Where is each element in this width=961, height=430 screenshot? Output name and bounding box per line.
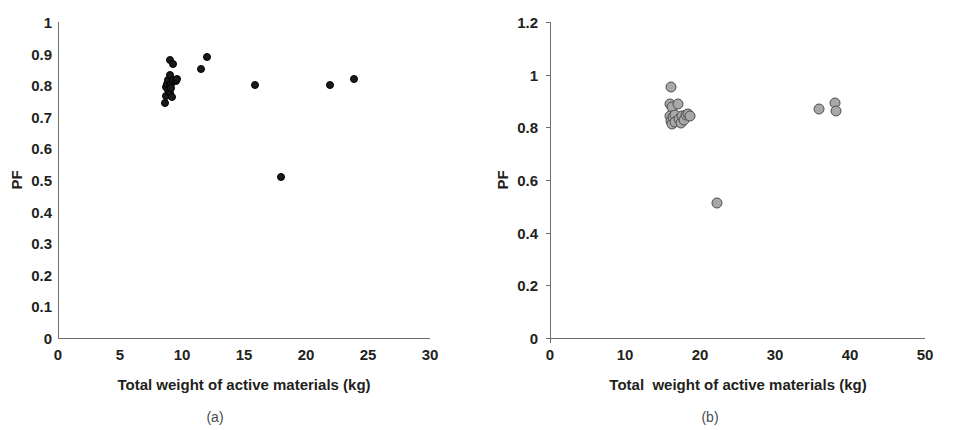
- x-tick-label: 5: [116, 347, 124, 362]
- y-tick-label: 0: [0, 331, 52, 346]
- data-point: [167, 84, 175, 92]
- x-tick-label: 10: [174, 347, 191, 362]
- x-axis-line-b: [550, 338, 925, 339]
- y-tick-label: 0: [480, 331, 538, 346]
- y-axis-title-b: PF: [495, 170, 510, 189]
- x-axis-title-b: Total weight of active materials (kg): [609, 377, 866, 392]
- chart-panel-a: 00.10.20.30.40.50.60.70.80.91 0510152025…: [0, 0, 480, 430]
- data-point: [251, 81, 259, 89]
- x-axis-line-a: [58, 338, 430, 339]
- x-tick-label: 40: [842, 347, 859, 362]
- y-tick-label: 0.4: [480, 225, 538, 240]
- y-tick-label: 1.2: [480, 15, 538, 30]
- x-tick-label: 10: [617, 347, 634, 362]
- x-tick-label: 20: [298, 347, 315, 362]
- x-tick-label: 0: [546, 347, 554, 362]
- data-point: [197, 65, 205, 73]
- data-point: [672, 98, 683, 109]
- x-tick-label: 50: [917, 347, 934, 362]
- panel-caption-b: (b): [701, 410, 718, 424]
- y-axis-title-a: PF: [9, 170, 24, 189]
- chart-panel-b: 00.20.40.60.811.2 01020304050 PF Total w…: [480, 0, 961, 430]
- x-tick-label: 30: [767, 347, 784, 362]
- x-tick-label: 15: [236, 347, 253, 362]
- data-point: [168, 93, 176, 101]
- y-tick-label: 0.8: [480, 120, 538, 135]
- plot-area-a: [58, 22, 430, 338]
- data-point: [665, 81, 676, 92]
- y-tick-label: 0.8: [0, 78, 52, 93]
- figure-container: 00.10.20.30.40.50.60.70.80.91 0510152025…: [0, 0, 961, 430]
- data-point: [685, 111, 696, 122]
- y-tick-label: 0.9: [0, 46, 52, 61]
- panel-caption-a: (a): [206, 410, 223, 424]
- y-tick-label: 1: [480, 67, 538, 82]
- data-point: [277, 173, 285, 181]
- x-tick-label: 0: [54, 347, 62, 362]
- y-tick-label: 0.7: [0, 109, 52, 124]
- data-point: [203, 53, 211, 61]
- plot-area-b: [550, 22, 925, 338]
- y-tick-label: 0.4: [0, 204, 52, 219]
- data-point: [169, 60, 177, 68]
- x-tick-label: 20: [692, 347, 709, 362]
- y-tick-label: 0.6: [0, 141, 52, 156]
- data-point: [830, 106, 841, 117]
- x-tick-label: 30: [422, 347, 439, 362]
- x-tick-label: 25: [360, 347, 377, 362]
- data-point: [326, 81, 334, 89]
- x-tick-mark: [550, 338, 551, 343]
- data-point: [173, 75, 181, 83]
- y-tick-label: 0.1: [0, 299, 52, 314]
- y-tick-label: 0.2: [0, 267, 52, 282]
- data-point: [814, 103, 825, 114]
- y-tick-label: 0.3: [0, 236, 52, 251]
- x-axis-title-a: Total weight of active materials (kg): [117, 377, 370, 392]
- y-tick-label: 0.2: [480, 278, 538, 293]
- data-point: [712, 198, 723, 209]
- y-tick-label: 1: [0, 15, 52, 30]
- data-point: [350, 75, 358, 83]
